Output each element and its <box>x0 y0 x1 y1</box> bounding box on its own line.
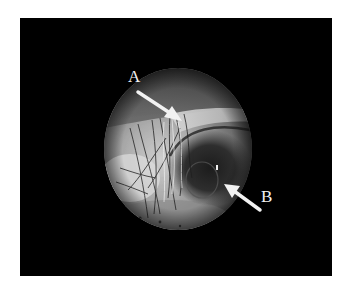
annotation-label-a: A <box>128 68 140 85</box>
annotation-label-b: B <box>261 188 272 205</box>
figure-panel: A B <box>20 18 332 276</box>
endoscopic-image <box>20 18 332 276</box>
scope-view <box>100 66 260 236</box>
